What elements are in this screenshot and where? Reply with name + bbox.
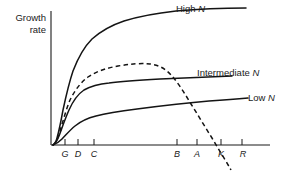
curve-label-high-n: High N [176,3,205,14]
plot-canvas: G D C B A K R Growth rate Hig [0,0,288,173]
curve-label-intermediate-n: Intermediate N [197,67,259,78]
y-axis-title-line1: Growth [15,12,46,23]
curve-label-low-n: Low N [248,92,275,103]
axes-group [51,11,270,145]
curve-low-n [53,98,248,145]
tick-label-b: B [174,149,180,159]
y-axis-title: Growth rate [15,12,46,35]
curve-intermediate-n [53,76,232,145]
tick-label-g: G [61,149,68,159]
y-axis-title-line2: rate [30,24,46,35]
tick-label-a: A [193,149,200,159]
tick-label-d: D [75,149,82,159]
curves-group [53,8,248,170]
tick-label-c: C [91,149,98,159]
growth-rate-figure: G D C B A K R Growth rate Hig [0,0,288,173]
curve-labels-group: High N Intermediate N Low N [176,3,275,103]
tick-label-r: R [240,149,247,159]
